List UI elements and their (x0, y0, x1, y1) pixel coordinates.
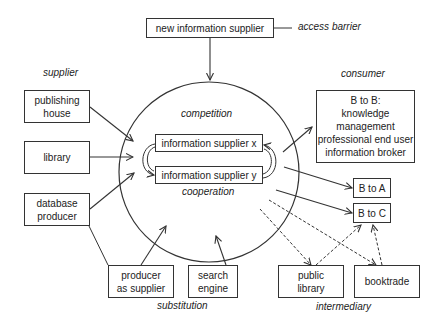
search-engine-box: search engine (188, 265, 238, 298)
producer-as-supplier-box: producer as supplier (108, 265, 174, 298)
database-producer-box: database producer (24, 193, 90, 226)
arrow-b2a (284, 167, 352, 188)
cooperation-label: cooperation (182, 186, 234, 197)
access-barrier-label: access barrier (298, 21, 361, 32)
competition-label: competition (181, 108, 232, 119)
public-library-box: public library (278, 265, 344, 298)
curve-right-inner (263, 149, 271, 174)
market-diagram: new information supplier access barrier … (0, 0, 440, 325)
b2a-box: B to A (353, 178, 391, 198)
arrow-booktrade-b2c (373, 225, 382, 265)
arrow-library-b2c (316, 225, 361, 265)
booktrade-box: booktrade (354, 265, 420, 298)
supplier-heading: supplier (43, 67, 78, 78)
arrow-public-library (260, 209, 311, 265)
substitution-label: substitution (157, 300, 208, 311)
b2b-box: B to B: knowledge management professiona… (316, 90, 415, 163)
supplier-y-box: information supplier y (155, 166, 263, 184)
arrow-database (90, 173, 134, 209)
line-database-producer (89, 226, 108, 265)
new-supplier-box: new information supplier (146, 18, 274, 38)
arrow-b2c (276, 190, 352, 213)
arrow-producer (141, 226, 166, 265)
consumer-heading: consumer (341, 68, 385, 79)
curve-left-inner (147, 147, 155, 171)
arrow-b2b (283, 127, 312, 152)
b2c-box: B to C (353, 203, 391, 223)
supplier-x-box: information supplier x (155, 134, 263, 152)
publishing-house-box: publishing house (24, 90, 90, 123)
intermediary-label: intermediary (316, 301, 371, 312)
library-box: library (24, 141, 90, 174)
arrow-publishing (90, 107, 133, 141)
